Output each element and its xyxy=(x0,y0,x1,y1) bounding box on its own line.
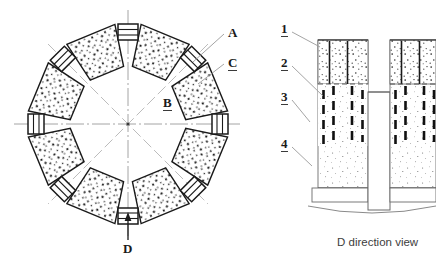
segment-connector xyxy=(28,114,44,134)
figure-canvas: A C B D 1 2 3 4 D direction view xyxy=(0,0,436,265)
right-section-view xyxy=(292,32,436,213)
label-b: B xyxy=(163,96,172,111)
segment-connector xyxy=(118,24,138,40)
leader-4 xyxy=(292,147,312,166)
label-d: D xyxy=(123,242,132,255)
connector-block xyxy=(118,24,138,40)
label-3: 3 xyxy=(281,90,288,105)
section-block-left xyxy=(312,40,368,202)
center-slot xyxy=(368,92,390,210)
label-a: A xyxy=(228,26,237,39)
base-plate xyxy=(390,188,436,202)
connector-block xyxy=(212,114,228,134)
leader-3 xyxy=(292,100,310,122)
center-mark xyxy=(126,122,129,125)
block-top-layer xyxy=(390,40,436,84)
left-plan-view xyxy=(14,10,242,240)
connector-block xyxy=(28,114,44,134)
label-2: 2 xyxy=(281,56,288,71)
leader-a xyxy=(193,34,224,62)
label-4: 4 xyxy=(281,137,288,152)
label-1: 1 xyxy=(281,22,288,37)
technical-drawing-svg xyxy=(0,0,436,265)
block-mid-layer xyxy=(318,84,368,146)
section-block-right xyxy=(390,40,436,202)
base-plate xyxy=(312,188,368,202)
view-caption: D direction view xyxy=(337,236,418,248)
leader-1 xyxy=(292,32,320,47)
block-top-layer xyxy=(318,40,368,84)
label-c: C xyxy=(228,56,237,71)
segment-connector xyxy=(212,114,228,134)
